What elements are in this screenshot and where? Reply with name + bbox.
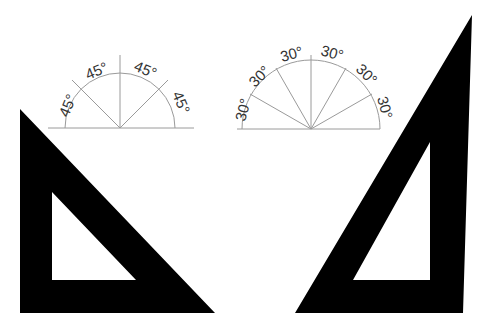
angle-label: 30° — [353, 60, 381, 88]
protractor-45: 45° 45° 45° 45° — [48, 55, 194, 128]
angle-label: 30° — [374, 94, 396, 120]
ray-60 — [311, 68, 346, 129]
ray-135 — [72, 80, 120, 128]
ray-30 — [311, 94, 372, 129]
set-square-30-60 — [295, 15, 472, 313]
angle-label: 30° — [278, 43, 304, 65]
angle-label: 45° — [83, 58, 110, 82]
ray-45 — [120, 80, 168, 128]
angle-label: 30° — [319, 41, 345, 63]
diagram-canvas: 45° 45° 45° 45° 30° 30° 30° 30° 30° 30° — [0, 0, 484, 336]
angle-label: 45° — [132, 57, 159, 81]
ray-120 — [276, 68, 311, 129]
protractor-30: 30° 30° 30° 30° 30° 30° — [231, 41, 396, 129]
angle-label: 30° — [231, 96, 253, 122]
ray-150 — [250, 94, 311, 129]
angle-label: 30° — [245, 62, 273, 90]
set-square-45 — [20, 109, 215, 313]
